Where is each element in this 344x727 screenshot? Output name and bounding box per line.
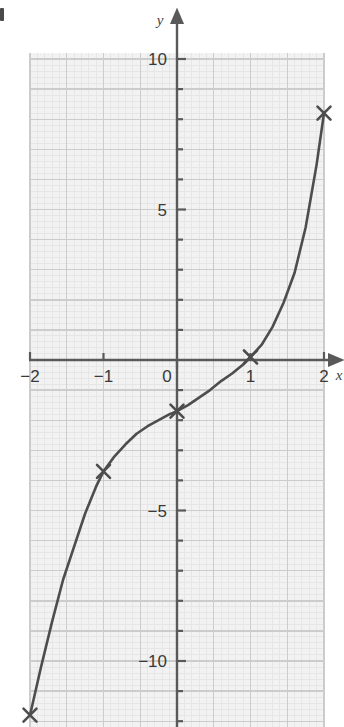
origin-label: 0 [162, 367, 171, 386]
y-tick-label: 5 [158, 201, 167, 220]
y-tick-label: 10 [148, 50, 167, 69]
x-tick-label: 1 [246, 367, 255, 386]
graph-figure: −2−112 105−5−100 y x [0, 0, 344, 727]
x-tick-label: −2 [20, 367, 39, 386]
x-tick-label: 2 [319, 367, 328, 386]
y-axis-label: y [155, 12, 164, 28]
x-axis-label: x [335, 367, 343, 383]
coordinate-plot-svg: −2−112 105−5−100 y x [0, 0, 344, 727]
x-tick-label: −1 [94, 367, 113, 386]
y-tick-label: −5 [148, 502, 167, 521]
y-tick-label: −10 [138, 652, 167, 671]
